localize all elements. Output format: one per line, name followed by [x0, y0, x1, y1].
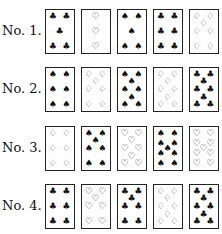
diamonds-icon: ♢	[62, 158, 71, 167]
hearts-icon: ♡	[206, 129, 215, 138]
spades-icon: ♠	[120, 41, 129, 50]
clubs-icon: ♣	[206, 99, 215, 108]
row-label: No. 1.	[2, 23, 42, 38]
spades-icon: ♠	[170, 129, 179, 138]
playing-card-7-of-clubs: ♣♣♣♣♣♣♣	[117, 184, 147, 229]
diamonds-icon: ♢	[156, 99, 165, 108]
hearts-icon: ♡	[192, 149, 201, 158]
spades-icon: ♠	[170, 149, 179, 158]
diamonds-icon: ♢	[170, 99, 179, 108]
hearts-icon: ♡	[84, 216, 93, 225]
clubs-icon: ♣	[48, 202, 57, 211]
hearts-icon: ♡	[192, 129, 201, 138]
spades-icon: ♠	[84, 144, 93, 153]
clubs-icon: ♣	[62, 12, 71, 21]
spades-icon: ♠	[120, 12, 129, 21]
playing-card-6-of-spades: ♠♠♠♠♠♠	[45, 67, 75, 112]
hearts-icon: ♡	[134, 158, 143, 167]
diamonds-icon: ♢	[192, 41, 201, 50]
spades-icon: ♠	[156, 158, 165, 167]
row-1: No. 1. ♣♣♣♣♣♡♡♡♠♠♠♠♠♣♣♣♣♣♣♢♢♢♢♢♢♢	[0, 9, 222, 55]
row-label: No. 2.	[2, 81, 42, 96]
row-label: No. 4.	[2, 198, 42, 213]
diamonds-icon: ♢	[156, 216, 165, 225]
playing-card-8-of-clubs: ♣♣♣♣♣♣♣♣	[189, 184, 219, 229]
playing-card-8-of-clubs: ♣♣♣♣♣♣♣♣	[189, 67, 219, 112]
clubs-icon: ♣	[48, 187, 57, 196]
clubs-icon: ♣	[62, 202, 71, 211]
playing-card-9-of-spades: ♠♠♠♠♠♠♠♠♠	[153, 126, 183, 171]
clubs-icon: ♣	[48, 12, 57, 21]
spades-icon: ♠	[62, 70, 71, 79]
clubs-icon: ♣	[156, 27, 165, 36]
row-label: No. 3.	[2, 140, 42, 155]
playing-card-8-of-diamonds: ♢♢♢♢♢♢♢♢	[153, 184, 183, 229]
hearts-icon: ♡	[91, 27, 100, 36]
diamonds-icon: ♢	[62, 144, 71, 153]
diamonds-icon: ♢	[206, 41, 215, 50]
row-4: No. 4. ♣♣♣♣♣♣♡♡♡♡♡♡♡♣♣♣♣♣♣♣♢♢♢♢♢♢♢♢♣♣♣♣♣…	[0, 184, 222, 230]
clubs-icon: ♣	[170, 12, 179, 21]
spades-icon: ♠	[48, 99, 57, 108]
playing-card-8-of-diamonds: ♢♢♢♢♢♢♢♢	[153, 67, 183, 112]
clubs-icon: ♣	[170, 41, 179, 50]
playing-card-7-of-spades: ♠♠♠♠♠♠♠	[81, 126, 111, 171]
playing-card-6-of-diamonds: ♢♢♢♢♢♢	[45, 126, 75, 171]
diamonds-icon: ♢	[48, 129, 57, 138]
spades-icon: ♠	[127, 27, 136, 36]
row-2: No. 2. ♠♠♠♠♠♠♢♢♢♢♢♢♢♠♠♠♠♠♠♠♠♢♢♢♢♢♢♢♢♣♣♣♣…	[0, 67, 222, 113]
spades-icon: ♠	[48, 70, 57, 79]
clubs-icon: ♣	[134, 202, 143, 211]
spades-icon: ♠	[98, 144, 107, 153]
diamonds-icon: ♢	[206, 27, 215, 36]
hearts-icon: ♡	[98, 216, 107, 225]
hearts-icon: ♡	[206, 158, 215, 167]
hearts-icon: ♡	[206, 149, 215, 158]
playing-card-8-of-spades: ♠♠♠♠♠♠♠♠	[117, 67, 147, 112]
hearts-icon: ♡	[91, 12, 100, 21]
diamonds-icon: ♢	[170, 216, 179, 225]
playing-card-6-of-clubs: ♣♣♣♣♣♣	[153, 9, 183, 54]
clubs-icon: ♣	[192, 99, 201, 108]
clubs-icon: ♣	[120, 202, 129, 211]
spades-icon: ♠	[98, 158, 107, 167]
clubs-icon: ♣	[55, 27, 64, 36]
playing-card-6-of-clubs: ♣♣♣♣♣♣	[45, 184, 75, 229]
clubs-icon: ♣	[62, 187, 71, 196]
playing-card-5-of-clubs: ♣♣♣♣♣	[45, 9, 75, 54]
clubs-icon: ♣	[48, 41, 57, 50]
spades-icon: ♠	[62, 85, 71, 94]
clubs-icon: ♣	[62, 216, 71, 225]
clubs-icon: ♣	[134, 216, 143, 225]
diamonds-icon: ♢	[62, 129, 71, 138]
spades-icon: ♠	[48, 85, 57, 94]
hearts-icon: ♡	[84, 202, 93, 211]
diamonds-icon: ♢	[48, 158, 57, 167]
playing-card-8-of-hearts: ♡♡♡♡♡♡♡♡	[117, 126, 147, 171]
clubs-icon: ♣	[156, 12, 165, 21]
clubs-icon: ♣	[192, 216, 201, 225]
clubs-icon: ♣	[62, 41, 71, 50]
playing-card-3-of-hearts: ♡♡♡	[81, 9, 111, 54]
diamonds-icon: ♢	[84, 99, 93, 108]
diamonds-icon: ♢	[192, 27, 201, 36]
playing-card-7-of-diamonds: ♢♢♢♢♢♢♢	[189, 9, 219, 54]
hearts-icon: ♡	[120, 158, 129, 167]
row-3: No. 3. ♢♢♢♢♢♢♠♠♠♠♠♠♠♡♡♡♡♡♡♡♡♠♠♠♠♠♠♠♠♠♡♡♡…	[0, 126, 222, 172]
spades-icon: ♠	[120, 99, 129, 108]
diamonds-icon: ♢	[84, 85, 93, 94]
spades-icon: ♠	[156, 149, 165, 158]
clubs-icon: ♣	[156, 41, 165, 50]
clubs-icon: ♣	[120, 216, 129, 225]
playing-card-7-of-diamonds: ♢♢♢♢♢♢♢	[81, 67, 111, 112]
clubs-icon: ♣	[48, 216, 57, 225]
hearts-icon: ♡	[91, 41, 100, 50]
spades-icon: ♠	[170, 158, 179, 167]
playing-card-7-of-hearts: ♡♡♡♡♡♡♡	[81, 184, 111, 229]
hearts-icon: ♡	[192, 158, 201, 167]
playing-card-5-of-spades: ♠♠♠♠♠	[117, 9, 147, 54]
spades-icon: ♠	[156, 129, 165, 138]
spades-icon: ♠	[62, 99, 71, 108]
diamonds-icon: ♢	[98, 99, 107, 108]
spades-icon: ♠	[134, 12, 143, 21]
